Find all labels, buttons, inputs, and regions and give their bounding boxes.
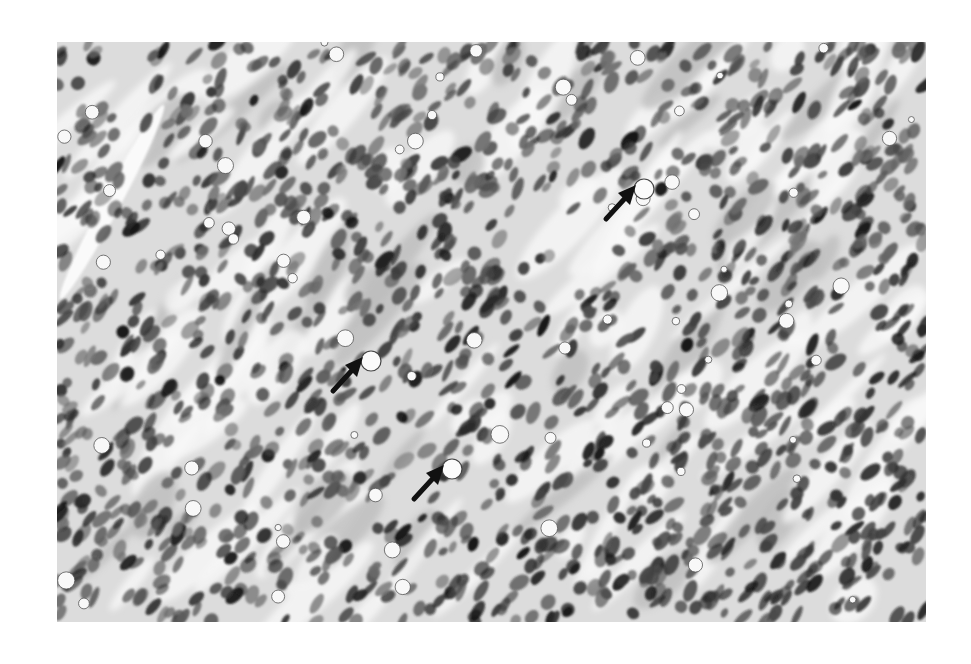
arrow-icon — [327, 355, 367, 395]
arrow-icon — [600, 183, 640, 223]
arrow-icon — [408, 463, 448, 503]
histology-micrograph — [57, 42, 926, 622]
tissue-texture — [57, 42, 926, 622]
